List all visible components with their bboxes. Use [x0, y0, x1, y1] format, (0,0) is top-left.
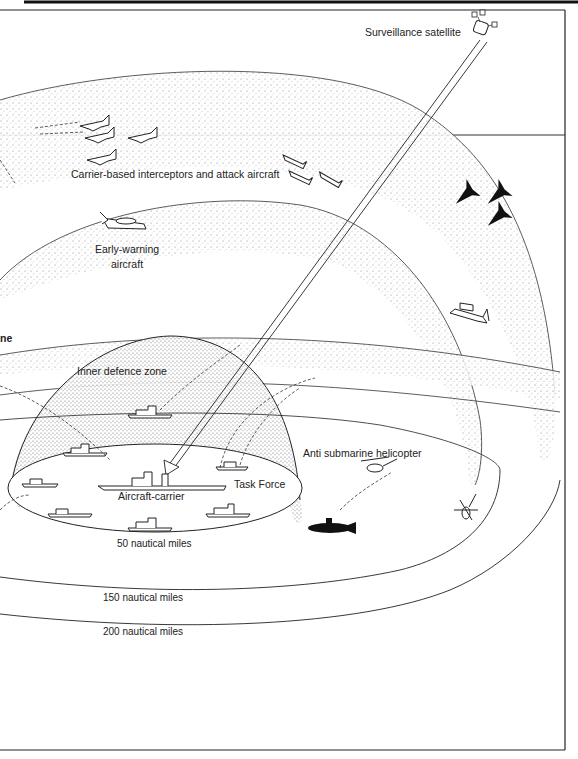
inner-zone-label: Inner defence zone [77, 365, 167, 378]
interceptors-label: Carrier-based interceptors and attack ai… [71, 168, 279, 181]
defence-zones-diagram [0, 0, 578, 759]
satellite-label: Surveillance satellite [365, 26, 461, 39]
range-50-label: 50 nautical miles [117, 538, 191, 550]
patrol-aircraft-icon [450, 303, 489, 323]
submarine-icon [308, 518, 356, 534]
early-warning-label-1: Early-warning [95, 243, 159, 256]
carrier-label: Aircraft-carrier [118, 490, 185, 503]
task-force-label: Task Force [234, 478, 285, 491]
early-warning-label-2: aircraft [111, 258, 143, 271]
range-150-label: 150 nautical miles [103, 592, 183, 604]
surveillance-satellite-icon [472, 10, 497, 36]
partial-left-label: ne [0, 332, 12, 345]
helicopter-icon [454, 494, 478, 520]
helicopter-label: Anti submarine helicopter [303, 447, 421, 460]
range-200-label: 200 nautical miles [103, 626, 183, 638]
